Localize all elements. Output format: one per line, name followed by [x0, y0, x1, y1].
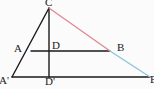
label-C: C: [45, 0, 52, 8]
segment-B-to-B-prime: [110, 51, 150, 77]
geometry-figure: CADBA'D'B': [0, 0, 154, 89]
label-B: B: [117, 42, 124, 53]
segment-layer: [12, 8, 150, 77]
label-A: A: [14, 43, 22, 54]
label-B-prime: B': [150, 74, 154, 85]
label-D: D: [52, 40, 60, 51]
label-A-prime: A': [0, 75, 9, 86]
geometry-canvas: [0, 0, 154, 89]
label-D-prime: D': [45, 76, 55, 87]
